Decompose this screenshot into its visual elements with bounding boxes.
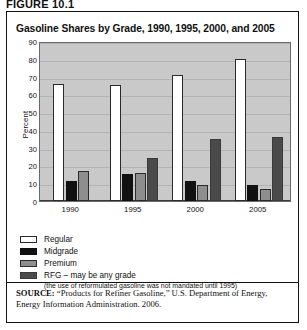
source-divider (7, 282, 298, 283)
legend-item-premium: Premium (20, 258, 290, 269)
legend-swatch-rfg (20, 272, 37, 279)
legend-item-regular: Regular (20, 234, 290, 245)
y-axis-tick-label: 60 (15, 91, 37, 100)
y-axis-tick-label: 70 (15, 73, 37, 82)
bar-regular-2000 (172, 75, 183, 201)
bar-rfg-2000 (210, 139, 221, 201)
x-axis-labels: 1990199520002005 (39, 205, 291, 219)
bar-regular-2005 (235, 59, 246, 201)
plot-area (39, 42, 291, 202)
legend-item-midgrade: Midgrade (20, 246, 290, 257)
x-axis-label-1995: 1995 (124, 205, 141, 214)
bar-premium-2000 (197, 185, 208, 201)
legend-item-rfg: RFG – may be any grade (20, 270, 290, 281)
legend-swatch-premium (20, 260, 37, 267)
chart-plot-wrapper: Percent 0102030405060708090 199019952000… (7, 42, 300, 227)
bar-group-1990 (40, 43, 103, 201)
bar-rfg-2005 (272, 137, 283, 201)
y-axis-tick-label: 10 (15, 180, 37, 189)
bar-premium-1995 (135, 173, 146, 201)
legend-swatch-midgrade (20, 248, 37, 255)
y-axis-tick-label: 20 (15, 162, 37, 171)
y-axis-tick-label: 30 (15, 144, 37, 153)
source-note: SOURCE: “Products for Refiner Gasoline,”… (16, 288, 290, 310)
x-axis-label-2005: 2005 (249, 205, 266, 214)
chart-legend: RegularMidgradePremiumRFG – may be any g… (20, 234, 290, 289)
source-prefix: SOURCE: (16, 288, 55, 298)
bar-premium-2005 (260, 189, 271, 201)
legend-label-regular: Regular (44, 235, 73, 244)
bar-midgrade-1995 (122, 174, 133, 201)
legend-label-midgrade: Midgrade (44, 247, 78, 256)
x-axis-label-2000: 2000 (187, 205, 204, 214)
bar-premium-1990 (78, 171, 89, 201)
figure-box: Gasoline Shares by Grade, 1990, 1995, 20… (6, 11, 299, 323)
legend-label-premium: Premium (44, 259, 77, 268)
legend-swatch-regular (20, 236, 37, 243)
y-axis-ticks: 0102030405060708090 (15, 42, 37, 202)
bar-group-2000 (165, 43, 228, 201)
bar-regular-1990 (53, 84, 64, 201)
y-axis-tick-label: 50 (15, 109, 37, 118)
y-axis-tick-label: 40 (15, 126, 37, 135)
bar-midgrade-1990 (66, 181, 77, 201)
bar-group-1995 (103, 43, 166, 201)
bar-regular-1995 (110, 85, 121, 201)
x-axis-label-1990: 1990 (62, 205, 79, 214)
bar-rfg-1995 (147, 158, 158, 201)
bar-midgrade-2000 (185, 181, 196, 201)
chart-title: Gasoline Shares by Grade, 1990, 1995, 20… (16, 23, 292, 35)
bar-midgrade-2005 (247, 185, 258, 201)
y-axis-tick-label: 90 (15, 38, 37, 47)
legend-label-rfg: RFG – may be any grade (44, 271, 136, 280)
bar-group-2005 (228, 43, 291, 201)
y-axis-tick-label: 0 (15, 198, 37, 207)
figure-label: FIGURE 10.1 (6, 0, 74, 10)
y-axis-tick-label: 80 (15, 55, 37, 64)
